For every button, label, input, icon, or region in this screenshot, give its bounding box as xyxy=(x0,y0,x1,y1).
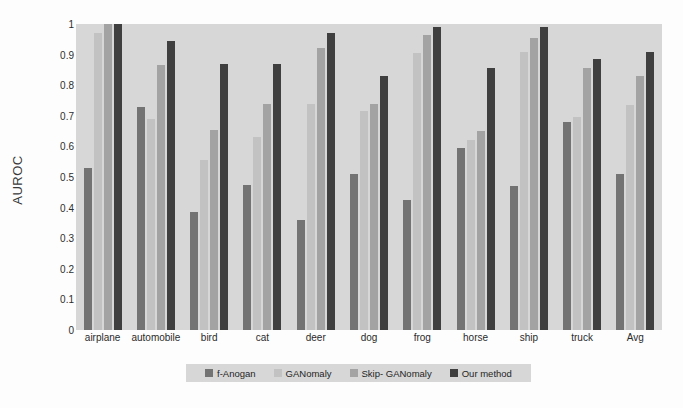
bar-airplane-series-2 xyxy=(94,33,102,330)
bar-frog-series-3 xyxy=(423,35,431,330)
chart-figure: AUROC 00.10.20.30.40.50.60.70.80.91 airp… xyxy=(0,0,683,408)
x-axis-tick-labels: airplaneautomobilebirdcatdeerdogfroghors… xyxy=(76,332,662,352)
bar-cat-series-1 xyxy=(243,185,251,330)
x-axis-tick-automobile: automobile xyxy=(131,332,180,343)
bar-group-airplane xyxy=(76,24,129,330)
legend-item-4[interactable]: Our method xyxy=(450,368,512,379)
x-axis-tick-ship: ship xyxy=(520,332,538,343)
bar-avg-series-1 xyxy=(616,174,624,330)
bar-avg-series-3 xyxy=(636,76,644,330)
x-axis-tick-airplane: airplane xyxy=(85,332,121,343)
legend-swatch-icon-3 xyxy=(350,369,358,377)
y-axis-tick-0.1: 0.1 xyxy=(44,294,74,305)
bar-deer-series-4 xyxy=(327,33,335,330)
bar-ship-series-4 xyxy=(540,27,548,330)
bar-avg-series-4 xyxy=(646,52,654,330)
bar-truck-series-3 xyxy=(583,68,591,330)
bar-horse-series-1 xyxy=(457,148,465,330)
bar-horse-series-4 xyxy=(487,68,495,330)
y-axis-tick-1: 1 xyxy=(44,19,74,30)
bar-group-avg xyxy=(609,24,662,330)
legend-label-2: GANomaly xyxy=(286,368,332,379)
y-axis-tick-0.6: 0.6 xyxy=(44,141,74,152)
bar-frog-series-1 xyxy=(403,200,411,330)
bar-group-dog xyxy=(342,24,395,330)
bar-group-frog xyxy=(396,24,449,330)
bar-automobile-series-1 xyxy=(137,107,145,330)
bar-truck-series-4 xyxy=(593,59,601,330)
y-axis-tick-0.3: 0.3 xyxy=(44,233,74,244)
bar-automobile-series-2 xyxy=(147,119,155,330)
bar-ship-series-1 xyxy=(510,186,518,330)
legend-label-3: Skip- GANomaly xyxy=(362,368,432,379)
bar-dog-series-2 xyxy=(360,111,368,330)
y-axis-tick-0.2: 0.2 xyxy=(44,263,74,274)
x-axis-tick-dog: dog xyxy=(361,332,378,343)
bar-cat-series-2 xyxy=(253,137,261,330)
bar-avg-series-2 xyxy=(626,105,634,330)
bar-bird-series-4 xyxy=(220,64,228,330)
legend-item-2[interactable]: GANomaly xyxy=(274,368,332,379)
bar-ship-series-2 xyxy=(520,52,528,330)
bar-horse-series-3 xyxy=(477,131,485,330)
y-axis-tick-0: 0 xyxy=(44,325,74,336)
bar-dog-series-1 xyxy=(350,174,358,330)
y-axis-tick-labels: 00.10.20.30.40.50.60.70.80.91 xyxy=(44,24,74,330)
bar-airplane-series-4 xyxy=(114,24,122,330)
y-axis-tick-0.4: 0.4 xyxy=(44,202,74,213)
y-axis-tick-0.5: 0.5 xyxy=(44,172,74,183)
y-axis-title: AUROC xyxy=(10,110,25,250)
bar-truck-series-2 xyxy=(573,117,581,330)
bar-frog-series-4 xyxy=(433,27,441,330)
x-axis-tick-bird: bird xyxy=(201,332,218,343)
y-axis-tick-0.9: 0.9 xyxy=(44,49,74,60)
x-axis-tick-deer: deer xyxy=(306,332,326,343)
bar-group-automobile xyxy=(129,24,182,330)
y-axis-tick-0.8: 0.8 xyxy=(44,80,74,91)
legend-swatch-icon-2 xyxy=(274,369,282,377)
legend-label-1: f-Anogan xyxy=(217,368,256,379)
bar-airplane-series-3 xyxy=(104,24,112,330)
x-axis-tick-horse: horse xyxy=(463,332,488,343)
bar-automobile-series-4 xyxy=(167,41,175,330)
bar-group-cat xyxy=(236,24,289,330)
bars-layer xyxy=(76,24,662,330)
bar-ship-series-3 xyxy=(530,38,538,330)
bar-bird-series-2 xyxy=(200,160,208,330)
legend-item-1[interactable]: f-Anogan xyxy=(205,368,256,379)
legend-swatch-icon-4 xyxy=(450,369,458,377)
bar-group-bird xyxy=(183,24,236,330)
bar-automobile-series-3 xyxy=(157,65,165,330)
bar-bird-series-1 xyxy=(190,212,198,330)
bar-deer-series-3 xyxy=(317,48,325,330)
chart-legend: f-AnoganGANomalySkip- GANomalyOur method xyxy=(186,364,531,382)
bar-bird-series-3 xyxy=(210,130,218,330)
bar-truck-series-1 xyxy=(563,122,571,330)
bar-dog-series-4 xyxy=(380,76,388,330)
bar-group-ship xyxy=(502,24,555,330)
x-axis-tick-cat: cat xyxy=(256,332,269,343)
x-axis-tick-avg: Avg xyxy=(627,332,644,343)
bar-dog-series-3 xyxy=(370,104,378,330)
x-axis-tick-truck: truck xyxy=(571,332,593,343)
bar-frog-series-2 xyxy=(413,53,421,330)
bar-cat-series-3 xyxy=(263,104,271,330)
plot-area xyxy=(76,24,662,330)
legend-label-4: Our method xyxy=(462,368,512,379)
bar-cat-series-4 xyxy=(273,64,281,330)
bar-group-truck xyxy=(555,24,608,330)
legend-item-3[interactable]: Skip- GANomaly xyxy=(350,368,432,379)
bar-horse-series-2 xyxy=(467,140,475,330)
bar-airplane-series-1 xyxy=(84,168,92,330)
y-axis-tick-0.7: 0.7 xyxy=(44,110,74,121)
bar-group-horse xyxy=(449,24,502,330)
x-axis-tick-frog: frog xyxy=(414,332,431,343)
bar-deer-series-2 xyxy=(307,104,315,330)
bar-deer-series-1 xyxy=(297,220,305,330)
legend-swatch-icon-1 xyxy=(205,369,213,377)
bar-group-deer xyxy=(289,24,342,330)
